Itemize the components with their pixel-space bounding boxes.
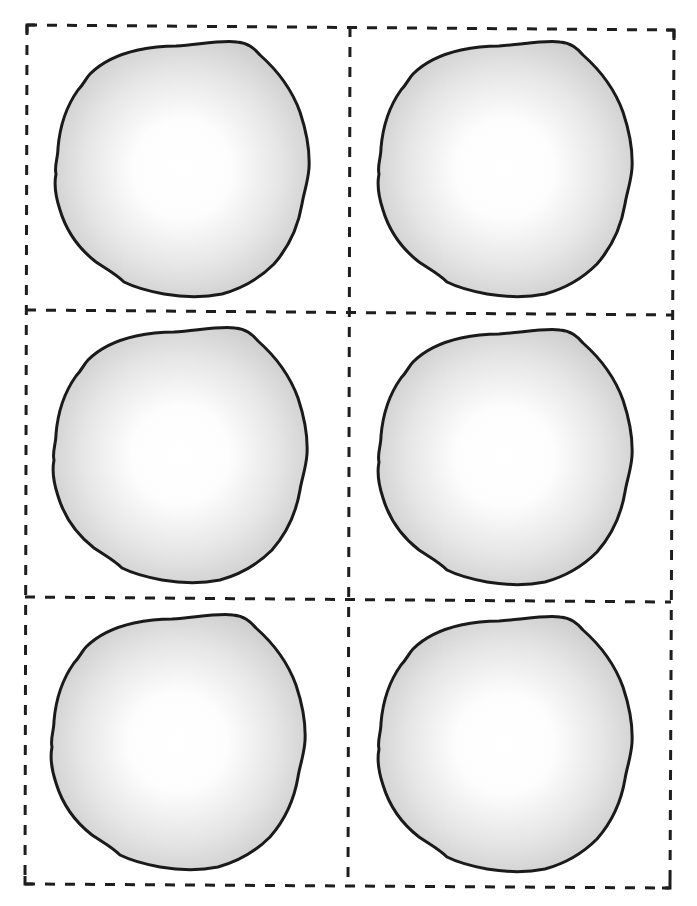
circle-blob-shape xyxy=(378,616,632,871)
cell-r2-c1 xyxy=(53,327,307,582)
dashed-cut-grid xyxy=(0,0,697,906)
corner-mark-top-left xyxy=(27,25,35,33)
circle-blob-shape xyxy=(55,41,309,296)
cut-line-left xyxy=(25,25,27,884)
cell-r2-c2 xyxy=(378,329,632,584)
cut-line-bottom xyxy=(25,884,670,888)
circle-blob-shape xyxy=(53,327,307,582)
cut-line-row-divider-2 xyxy=(25,597,671,602)
circle-blob-shape xyxy=(378,41,632,296)
cell-r3-c2 xyxy=(378,616,632,871)
cutout-template-sheet xyxy=(0,0,697,906)
corner-mark-bottom-left xyxy=(25,876,33,884)
circle-blob-shape xyxy=(51,614,305,869)
corner-mark-top-right xyxy=(666,30,674,38)
cut-line-right xyxy=(670,30,674,888)
cell-r3-c1 xyxy=(51,614,305,869)
corner-mark-bottom-right xyxy=(662,880,670,888)
cell-r1-c1 xyxy=(55,41,309,296)
cell-r1-c2 xyxy=(378,41,632,296)
circle-blob-shape xyxy=(378,329,632,584)
cut-line-center-vertical xyxy=(348,27,350,886)
